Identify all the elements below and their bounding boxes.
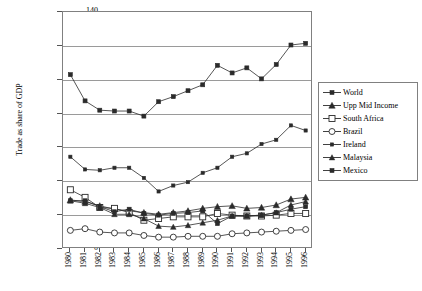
legend-label: South Africa [342,114,384,123]
data-point-marker [273,202,279,208]
data-point-marker [201,209,205,213]
data-point-marker [330,91,334,95]
data-point-marker [200,214,206,220]
data-point-marker [214,210,220,216]
x-axis-tick-label: 1980 [65,252,73,268]
data-point-marker [186,211,190,215]
legend-marker-icon [322,139,342,150]
series-layer [63,12,313,249]
data-point-marker [289,207,293,211]
series-ireland [69,124,307,193]
data-point-marker [113,166,116,169]
legend-marker-icon [322,152,342,163]
data-point-marker [98,108,102,112]
data-point-marker [231,155,234,158]
data-point-marker [330,143,333,146]
data-point-marker [229,231,235,237]
y-axis-tick-mark [57,248,62,249]
x-axis-tick-label: 1991 [227,252,235,268]
legend-marker-icon [322,113,342,124]
legend-item-mexico[interactable]: Mexico [322,164,415,177]
x-axis-tick-label: 1993 [257,252,265,268]
x-axis-tick-label: 1990 [212,252,220,268]
data-point-marker [98,205,102,209]
legend-item-malaysia[interactable]: Malaysia [322,151,415,164]
data-point-marker [69,155,72,158]
x-axis-tick-label: 1992 [242,252,250,268]
data-point-marker [289,124,292,127]
data-point-marker [273,228,279,234]
data-point-marker [111,230,117,236]
legend-label: Malaysia [342,153,372,162]
legend-marker-icon [322,87,342,98]
x-axis-tick-label: 1983 [109,252,117,268]
data-point-marker [200,233,206,239]
legend-item-brazil[interactable]: Brazil [322,125,415,138]
data-point-marker [142,176,145,179]
data-point-marker [171,95,175,99]
x-axis-tick-label: 1989 [198,252,206,268]
data-point-marker [304,205,308,209]
legend-label: Ireland [342,140,366,149]
legend-item-south-africa[interactable]: South Africa [322,112,415,125]
data-point-marker [126,230,132,236]
data-point-marker [82,226,88,232]
data-point-marker [97,229,103,235]
data-point-marker [274,62,278,66]
data-point-marker [260,213,264,217]
data-point-marker [157,100,161,104]
data-point-marker [215,222,219,226]
data-point-marker [172,184,175,187]
data-point-marker [230,214,234,218]
data-point-marker [289,43,293,47]
x-axis-tick-label: 1988 [183,252,191,268]
x-axis-tick-label: 1981 [80,252,88,268]
data-point-marker [329,129,335,135]
x-axis-tick-label: 1985 [139,252,147,268]
x-axis-tick-label: 1994 [271,252,279,268]
legend-item-ireland[interactable]: Ireland [322,138,415,151]
y-axis-title: Trade as share of GDP [15,50,24,190]
legend-item-upp-mid-income[interactable]: Upp Mid Income [322,99,415,112]
data-point-marker [201,171,204,174]
data-point-marker [171,211,175,215]
data-point-marker [98,169,101,172]
data-point-marker [216,166,219,169]
data-point-marker [83,199,87,203]
legend-marker-icon [322,126,342,137]
data-point-marker [68,73,72,77]
data-point-marker [67,227,73,233]
legend-item-world[interactable]: World [322,86,415,99]
data-point-marker [186,181,189,184]
x-axis-tick-label: 1984 [124,252,132,268]
data-point-marker [260,77,264,81]
data-point-marker [230,71,234,75]
data-point-marker [201,83,205,87]
data-point-marker [330,169,334,173]
data-point-marker [260,142,263,145]
legend-label: World [342,88,363,97]
data-point-marker [112,109,116,113]
data-point-marker [245,66,249,70]
data-point-marker [245,214,249,218]
data-point-marker [156,234,162,240]
series-south-africa [67,187,308,223]
data-point-marker [275,138,278,141]
legend-label: Upp Mid Income [342,101,398,110]
data-point-marker [141,232,147,238]
data-point-marker [142,114,146,118]
data-point-marker [83,168,86,171]
data-point-marker [215,63,219,67]
data-point-marker [83,99,87,103]
data-point-marker [303,227,309,233]
chart-legend: WorldUpp Mid IncomeSouth AfricaBrazilIre… [318,82,418,181]
data-point-marker [185,233,191,239]
series-line [70,43,305,116]
data-point-marker [67,187,73,193]
data-point-marker [128,166,131,169]
data-point-marker [329,116,335,122]
data-point-marker [304,129,307,132]
data-point-marker [170,234,176,240]
data-point-marker [186,89,190,93]
data-point-marker [244,230,250,236]
